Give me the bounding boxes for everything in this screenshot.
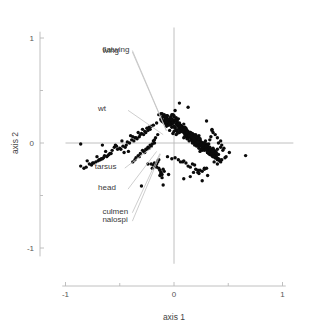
data-point	[203, 141, 206, 144]
data-point	[178, 101, 181, 104]
x-axis-ticks: -101	[62, 282, 286, 299]
data-point	[189, 165, 192, 168]
data-point	[115, 144, 118, 147]
data-point	[212, 160, 215, 163]
data-point	[210, 128, 213, 131]
data-point	[173, 156, 176, 159]
data-point	[167, 117, 170, 120]
data-point	[205, 119, 208, 122]
data-point	[244, 154, 247, 157]
data-point	[192, 171, 195, 174]
variable-label: head	[98, 183, 116, 192]
x-tick-label: -1	[62, 290, 70, 299]
variable-label: tarsus	[95, 162, 117, 171]
data-point	[177, 117, 180, 120]
data-point	[155, 121, 158, 124]
x-tick-label: 1	[280, 290, 285, 299]
y-axis-ticks: -101	[27, 32, 44, 257]
data-point	[228, 151, 231, 154]
data-point	[101, 143, 104, 146]
data-point	[196, 140, 199, 143]
data-point	[151, 142, 154, 145]
data-point	[216, 148, 219, 151]
data-point	[184, 161, 187, 164]
x-axis-title: axis 1	[163, 312, 185, 322]
data-point	[173, 126, 176, 129]
data-point	[120, 139, 123, 142]
data-point	[166, 155, 169, 158]
data-point	[221, 149, 224, 152]
data-point	[201, 170, 204, 173]
data-point	[170, 113, 173, 116]
data-point	[168, 122, 171, 125]
data-point	[138, 135, 141, 138]
data-point	[216, 162, 219, 165]
data-point	[179, 125, 182, 128]
data-point	[163, 170, 166, 173]
data-point	[197, 172, 200, 175]
data-point	[170, 157, 173, 160]
data-point	[157, 167, 160, 170]
data-point	[134, 136, 137, 139]
biplot-svg: -101 -101 flatwingwingwttarsusheadculmen…	[0, 0, 315, 327]
data-point	[218, 158, 221, 161]
data-point	[132, 139, 135, 142]
scatter-points	[79, 101, 247, 187]
data-point	[211, 147, 214, 150]
data-point	[219, 146, 222, 149]
biplot-chart: -101 -101 flatwingwingwttarsusheadculmen…	[0, 0, 315, 327]
data-point	[185, 131, 188, 134]
data-point	[189, 175, 192, 178]
y-tick-label: 0	[30, 139, 35, 148]
data-point	[206, 174, 209, 177]
data-point	[177, 158, 180, 161]
data-point	[168, 129, 171, 132]
data-point	[95, 155, 98, 158]
data-point	[86, 159, 89, 162]
y-tick-label: 1	[30, 34, 35, 43]
data-point	[129, 134, 132, 137]
data-point	[186, 106, 189, 109]
data-point	[205, 144, 208, 147]
data-point	[173, 109, 176, 112]
data-point	[187, 134, 190, 137]
axes-group	[66, 28, 294, 264]
data-point	[165, 120, 168, 123]
data-point	[206, 151, 209, 154]
data-point	[160, 176, 163, 179]
variable-label: nalospi	[102, 215, 128, 224]
y-tick-label: -1	[27, 244, 35, 253]
data-point	[201, 179, 204, 182]
variable-labels: flatwingwingwttarsusheadculmennalospi	[95, 45, 130, 225]
data-point	[215, 151, 218, 154]
data-point	[123, 146, 126, 149]
data-point	[182, 122, 185, 125]
data-point	[101, 157, 104, 160]
loading-vector-line	[132, 52, 166, 131]
data-point	[150, 162, 153, 165]
data-point	[181, 160, 184, 163]
data-point	[84, 165, 87, 168]
data-point	[192, 137, 195, 140]
data-point	[172, 130, 175, 133]
data-point	[140, 184, 143, 187]
data-point	[142, 133, 145, 136]
data-point	[159, 172, 162, 175]
data-point	[183, 126, 186, 129]
data-point	[152, 123, 155, 126]
data-point	[104, 150, 107, 153]
data-point	[167, 173, 170, 176]
data-point	[127, 150, 130, 153]
data-point	[210, 150, 213, 153]
data-point	[161, 183, 164, 186]
data-point	[122, 151, 125, 154]
x-tick-label: 0	[172, 290, 177, 299]
data-point	[119, 148, 122, 151]
data-point	[110, 149, 113, 152]
data-point	[195, 135, 198, 138]
data-point	[208, 146, 211, 149]
data-point	[182, 177, 185, 180]
data-point	[126, 140, 129, 143]
data-point	[148, 128, 151, 131]
data-point	[171, 121, 174, 124]
